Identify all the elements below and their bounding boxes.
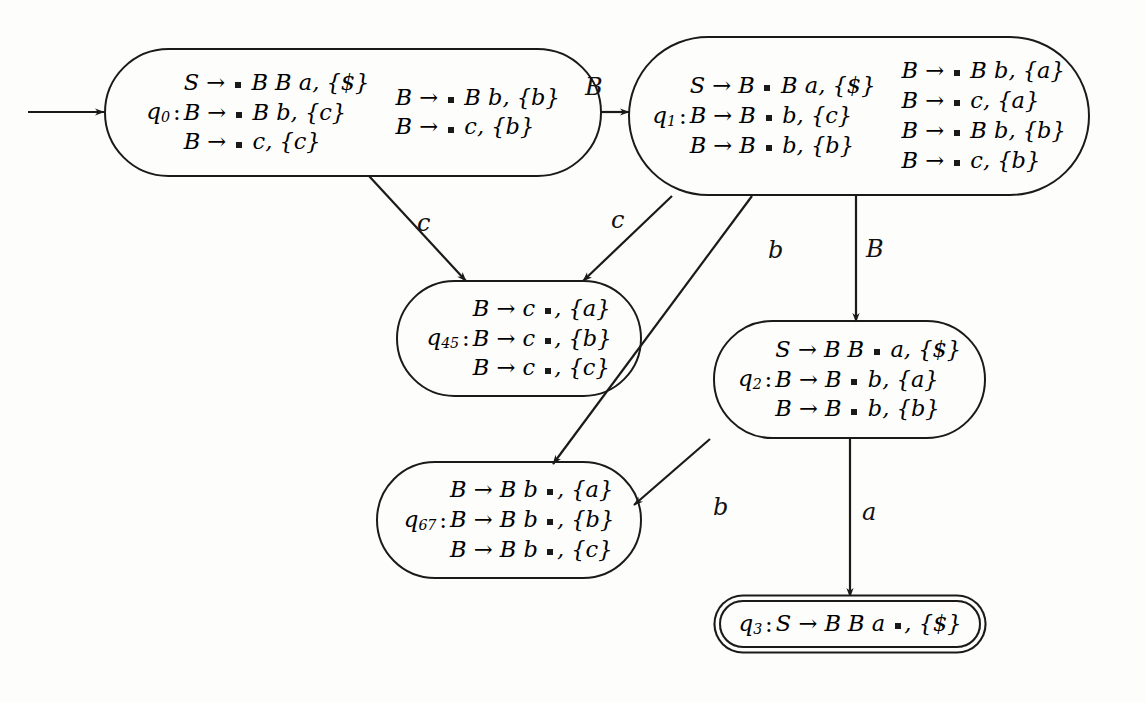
lr-dot-marker [547, 549, 553, 555]
item-column-1: B → B b, {b} B → c, {b} [395, 83, 559, 143]
lr-item: B → c , {a} [473, 294, 611, 324]
lr-item: B → c, {b} [395, 112, 534, 142]
edge-label-q0-q1: B [585, 75, 603, 99]
edge-q1-q45 [583, 196, 672, 281]
automaton-diagram: B c c b B b a q0 : S → B B a, {$} B → B … [0, 0, 1146, 702]
lr-dot-marker [235, 82, 241, 88]
state-colon: : [438, 507, 450, 533]
lr-item: B → c , {b} [473, 324, 612, 354]
item-column-0: S → B B a, {$} B → B b, {a} B → B b, {b} [775, 335, 961, 425]
lr-item: B → B b, {b} [690, 131, 854, 161]
lr-dot-marker [547, 489, 553, 495]
item-column-0: B → B b , {a} B → B b , {b} B → B b , {c… [450, 475, 614, 565]
lr-item: S → B B a , {$} [776, 609, 962, 639]
lr-dot-marker [874, 349, 880, 355]
edge-label-q1-q2: B [866, 237, 884, 261]
lr-dot-marker [236, 112, 242, 118]
state-label-q3: q3 [738, 612, 764, 636]
lr-dot-marker [954, 70, 960, 76]
state-node-q0[interactable]: q0 : S → B B a, {$} B → B b, {c} B → c, … [104, 48, 602, 177]
lr-dot-marker [545, 308, 551, 314]
state-node-q67[interactable]: q67 : B → B b , {a} B → B b , {b} B → B … [376, 461, 642, 579]
lr-dot-marker [448, 127, 454, 133]
edge-q2-q67 [634, 439, 710, 505]
lr-item: B → B b , {b} [450, 505, 614, 535]
lr-dot-marker [766, 145, 772, 151]
lr-dot-marker [547, 519, 553, 525]
edge-label-q0-q45: c [417, 211, 430, 235]
state-colon: : [461, 325, 473, 351]
lr-dot-marker [236, 142, 242, 148]
edge-label-q2-q3: a [862, 500, 876, 524]
state-node-q2[interactable]: q2 : S → B B a, {$} B → B b, {a} B → B b… [713, 320, 986, 439]
item-column-0: B → c , {a} B → c , {b} B → c , {c} [473, 294, 612, 384]
lr-dot-marker [954, 160, 960, 166]
lr-item: B → c, {b} [901, 146, 1040, 176]
edge-label-q1-q67: b [768, 238, 783, 262]
lr-item: B → c , {c} [473, 353, 610, 383]
lr-dot-marker [851, 409, 857, 415]
lr-dot-marker [448, 97, 454, 103]
state-node-q45[interactable]: q45 : B → c , {a} B → c , {b} B → c , {c… [396, 280, 642, 397]
lr-item: B → B b , {a} [450, 475, 613, 505]
lr-item: B → c, {c} [184, 127, 321, 157]
lr-dot-marker [764, 85, 770, 91]
item-column-1: B → B b, {a} B → c, {a} B → B b, {b} B →… [901, 56, 1065, 176]
state-label-q0: q0 [146, 100, 172, 124]
lr-item: B → B b, {b} [395, 83, 559, 113]
lr-item: B → B b, {b} [775, 394, 939, 424]
lr-item: S → B B a, {$} [184, 68, 370, 98]
lr-dot-marker [954, 100, 960, 106]
state-colon: : [172, 99, 184, 125]
lr-item: S → B B a, {$} [690, 71, 876, 101]
item-column-0: S → B B a , {$} [776, 609, 962, 639]
lr-item: B → B b, {b} [901, 116, 1065, 146]
state-node-q3[interactable]: q3 : S → B B a , {$} [719, 600, 981, 648]
edge-label-q1-q45: c [611, 208, 624, 232]
lr-item: B → B b, {c} [184, 98, 346, 128]
lr-item: B → c, {a} [901, 86, 1039, 116]
edge-label-q2-q67: b [713, 495, 728, 519]
item-column-0: S → B B a, {$} B → B b, {c} B → c, {c} [184, 68, 370, 158]
state-label-q1: q1 [652, 104, 678, 128]
lr-item: S → B B a, {$} [775, 335, 961, 365]
state-node-q1[interactable]: q1 : S → B B a, {$} B → B b, {c} B → B b… [628, 36, 1090, 196]
state-label-q45: q45 [426, 326, 461, 350]
lr-item: B → B b, {a} [901, 56, 1064, 86]
lr-item: B → B b, {c} [690, 101, 852, 131]
item-column-0: S → B B a, {$} B → B b, {c} B → B b, {b} [690, 71, 876, 161]
state-label-q2: q2 [738, 367, 764, 391]
lr-dot-marker [954, 130, 960, 136]
lr-dot-marker [545, 368, 551, 374]
lr-item: B → B b, {a} [775, 365, 938, 395]
lr-dot-marker [851, 379, 857, 385]
lr-dot-marker [545, 338, 551, 344]
state-colon: : [678, 103, 690, 129]
lr-dot-marker [895, 623, 901, 629]
lr-dot-marker [766, 115, 772, 121]
state-colon: : [764, 366, 776, 392]
state-label-q67: q67 [404, 508, 439, 532]
state-colon: : [764, 611, 776, 637]
lr-item: B → B b , {c} [450, 535, 612, 565]
